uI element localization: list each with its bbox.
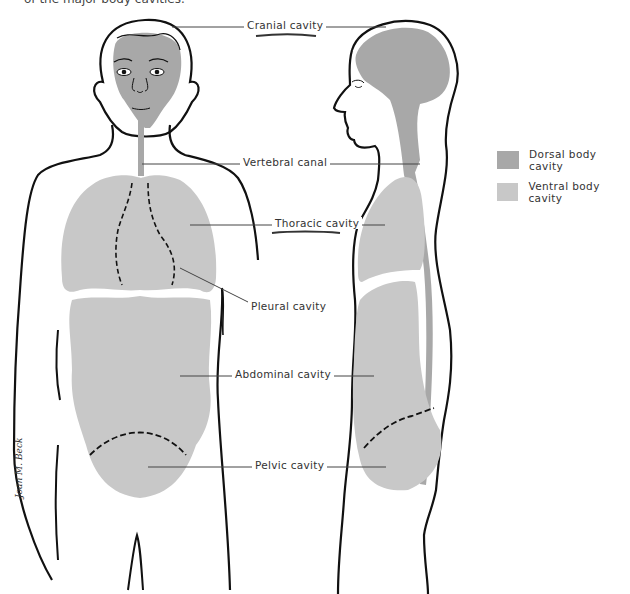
dorsal-swatch xyxy=(497,151,519,169)
ventral-swatch xyxy=(497,183,518,201)
cranial-cavity-side xyxy=(355,28,449,190)
legend-item-ventral: Ventral body cavity xyxy=(497,180,630,204)
vertebral-canal-front xyxy=(138,112,144,176)
label-cranial-cavity: Cranial cavity xyxy=(244,19,326,31)
body-cavities-figure xyxy=(0,0,630,594)
label-pleural-cavity: Pleural cavity xyxy=(248,300,329,312)
artist-signature: Joan M. Beck xyxy=(14,438,24,498)
front-figure xyxy=(14,20,258,590)
abdominal-cavity-front xyxy=(69,296,211,498)
legend-label: Dorsal body cavity xyxy=(529,148,630,172)
label-abdominal-cavity: Abdominal cavity xyxy=(232,368,334,380)
thoracic-cavity-side xyxy=(358,177,425,282)
label-vertebral-canal: Vertebral canal xyxy=(240,156,330,168)
legend-item-dorsal: Dorsal body cavity xyxy=(497,148,630,172)
legend-label: Ventral body cavity xyxy=(528,180,630,204)
legend: Dorsal body cavity Ventral body cavity xyxy=(497,148,630,212)
side-figure xyxy=(334,21,458,594)
label-thoracic-cavity: Thoracic cavity xyxy=(272,217,362,229)
label-pelvic-cavity: Pelvic cavity xyxy=(252,459,327,471)
